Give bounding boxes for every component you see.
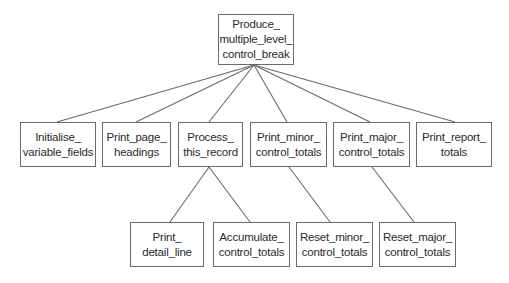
node-label-line: control_totals — [339, 145, 405, 160]
edge-root-to-print-report-totals — [254, 65, 455, 122]
node-label-line: Print_major_ — [340, 130, 403, 145]
node-label-line: Print_minor_ — [257, 130, 320, 145]
node-reset-major-control-totals: Reset_major_control_totals — [379, 222, 456, 267]
node-print-minor-control-totals: Print_minor_control_totals — [250, 122, 327, 167]
node-label-line: headings — [114, 145, 159, 160]
edge-process-this-record-to-accumulate-control-totals — [209, 167, 250, 222]
edge-root-to-process-this-record — [209, 65, 254, 122]
edge-root-to-initialise — [57, 65, 254, 122]
node-label-line: totals — [441, 145, 467, 160]
node-label-line: variable_fields — [23, 145, 94, 160]
node-label-line: Initialise_ — [35, 130, 81, 145]
node-root: Produce_multiple_level_control_break — [218, 14, 294, 65]
node-print-report-totals: Print_report_totals — [416, 122, 492, 167]
node-print-major-control-totals: Print_major_control_totals — [333, 122, 410, 167]
node-label-line: Print_ — [153, 230, 182, 245]
node-label-line: control_totals — [385, 245, 451, 260]
node-label-line: control_totals — [302, 245, 368, 260]
node-process-this-record: Process_this_record — [178, 122, 243, 167]
node-label-line: Print_report_ — [422, 130, 486, 145]
node-reset-minor-control-totals: Reset_minor_control_totals — [296, 222, 373, 267]
node-label-line: multiple_level_ — [219, 32, 292, 47]
node-label-line: this_record — [183, 145, 238, 160]
node-label-line: control_totals — [219, 245, 285, 260]
node-label-line: detail_line — [142, 245, 192, 260]
structure-chart: Produce_multiple_level_control_breakInit… — [0, 0, 509, 283]
node-label-line: Accumulate_ — [219, 230, 283, 245]
node-label-line: Produce_ — [232, 17, 280, 32]
edge-print-major-control-totals-to-reset-major-control-totals — [372, 167, 414, 222]
node-accumulate-control-totals: Accumulate_control_totals — [213, 222, 290, 267]
node-label-line: control_totals — [256, 145, 322, 160]
node-label-line: Reset_major_ — [383, 230, 452, 245]
node-initialise: Initialise_variable_fields — [20, 122, 96, 167]
node-print-detail-line: Print_detail_line — [130, 222, 204, 267]
edge-process-this-record-to-print-detail-line — [170, 167, 209, 222]
node-label-line: control_break — [222, 47, 289, 62]
node-print-page-headings: Print_page_headings — [102, 122, 171, 167]
node-label-line: Process_ — [187, 130, 233, 145]
edge-print-minor-control-totals-to-reset-minor-control-totals — [289, 167, 330, 222]
node-label-line: Reset_minor_ — [300, 230, 369, 245]
node-label-line: Print_page_ — [107, 130, 167, 145]
